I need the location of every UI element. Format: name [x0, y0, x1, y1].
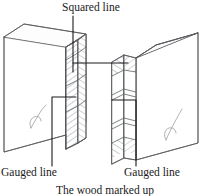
label-gauged-line-left: Gauged line — [1, 167, 57, 179]
label-squared-line: Squared line — [62, 2, 120, 14]
label-gauged-line-right: Gauged line — [124, 167, 180, 179]
woodworking-marking-figure: Squared line Gauged line Gauged line The… — [0, 0, 202, 196]
left-block-end-hatching — [66, 34, 86, 149]
figure-caption: The wood marked up — [56, 185, 154, 196]
